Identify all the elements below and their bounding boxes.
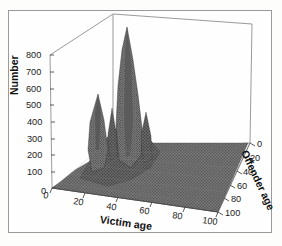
vertical-tick-500: 500 xyxy=(26,100,41,110)
offender-tick-20: 20 xyxy=(250,153,260,163)
victim-tick-100: 100 xyxy=(202,215,219,227)
offender-tick-100: 100 xyxy=(225,208,240,218)
victim-tick-80: 80 xyxy=(172,210,184,221)
peak-satellite-left xyxy=(108,108,117,160)
vertical-tick-200: 200 xyxy=(27,150,42,160)
vertical-axis-label: Number xyxy=(8,55,20,95)
offender-tick-40: 40 xyxy=(243,167,253,177)
vertical-tick-400: 400 xyxy=(27,117,42,127)
victim-tick-60: 60 xyxy=(139,205,151,216)
vertical-tick-300: 300 xyxy=(27,134,42,144)
offender-tick-60: 60 xyxy=(237,181,247,191)
victim-tick-40: 40 xyxy=(106,201,118,212)
vertical-tick-700: 700 xyxy=(26,67,41,77)
peak-satellite-right xyxy=(141,112,152,162)
offender-tick-0: 0 xyxy=(257,139,262,149)
victim-tick-20: 20 xyxy=(73,196,85,207)
vertical-tick-100: 100 xyxy=(27,167,42,177)
surface-body xyxy=(52,27,248,212)
figure-canvas: Number 800 700 600 500 400 300 200 100 0… xyxy=(0,0,282,246)
vertical-tick-800: 800 xyxy=(26,50,41,60)
offender-tick-80: 80 xyxy=(231,194,241,204)
vertical-tick-600: 600 xyxy=(26,84,41,94)
